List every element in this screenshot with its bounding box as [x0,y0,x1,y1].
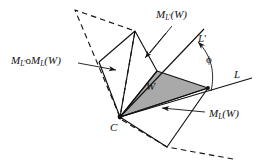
reflection-diagram-svg [0,0,261,160]
label-ml-prime-w-arg: (W) [171,8,188,20]
upper-left-solid-edge [99,31,135,62]
label-ml-w-base: M [209,107,218,119]
label-line-l: L [234,69,240,80]
label-wedge-w: W [146,81,155,92]
leader-mlprime-w-arrow [145,33,166,58]
label-line-l-prime-mark: ' [204,32,206,44]
composed-wedge-dashed [75,10,135,117]
label-ml-prime-w: ML'(W) [156,9,187,21]
label-line-l-prime: L' [198,33,206,44]
figure-container: ML'(W) ML'oML(W) L' L ML(W) W C ϕ [0,0,261,160]
label-ml-prime-w-base: M [156,8,165,20]
label-composition-arg: (W) [44,54,61,66]
angle-phi-arc [198,42,213,91]
upper-left-solid-edge-lower [99,62,120,117]
label-angle-phi: ϕ [206,54,212,65]
wedge-w-shaded-region [120,71,208,117]
label-ml-w-arg: (W) [222,107,239,119]
apex-point-c [118,115,123,120]
leader-ml-w [162,108,205,112]
label-ml-w: ML(W) [209,108,239,120]
label-composition-base1: M [11,54,20,66]
bottom-dashed-boundary [122,120,233,159]
label-composition-base2: M [31,54,40,66]
vertex-dot-l-prime [206,86,210,90]
label-composition-ml-prime-o-ml-w: ML'oML(W) [11,55,61,67]
label-center-c: C [110,122,117,133]
leader-composition [78,63,116,70]
